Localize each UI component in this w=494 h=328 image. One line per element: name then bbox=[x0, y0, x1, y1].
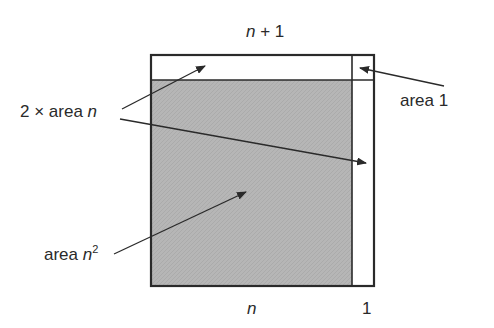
area-n-squared-label: area n2 bbox=[44, 243, 98, 264]
top-side-label: n + 1 bbox=[246, 22, 284, 41]
arrow-to-unit-square bbox=[360, 68, 444, 86]
bottom-n-label: n bbox=[247, 299, 256, 318]
area-1-label: area 1 bbox=[400, 91, 448, 110]
diagram-canvas: n + 1 2 × area n area 1 area n2 n 1 bbox=[0, 0, 494, 328]
bottom-1-label: 1 bbox=[362, 299, 371, 318]
two-area-n-label: 2 × area n bbox=[20, 102, 97, 121]
area-n-squared-region bbox=[151, 80, 352, 286]
